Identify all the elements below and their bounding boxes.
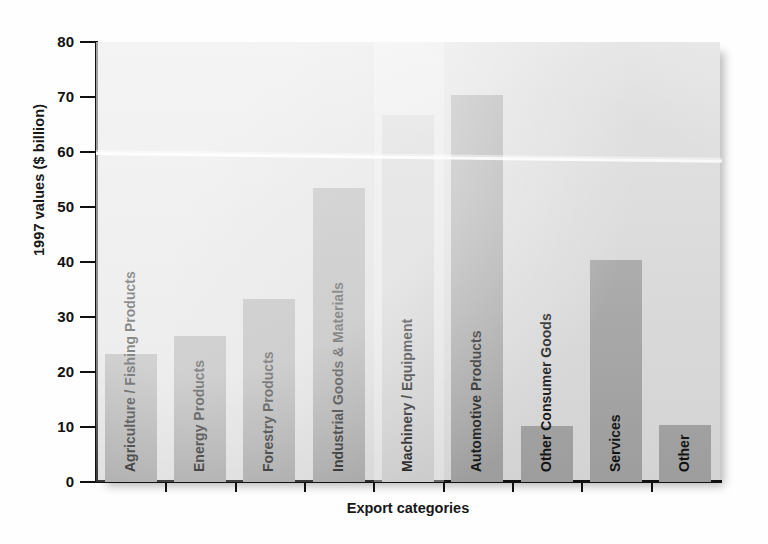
y-axis-tick bbox=[80, 96, 96, 98]
y-axis-tick bbox=[80, 41, 96, 43]
y-axis-tick bbox=[80, 151, 96, 153]
y-axis-tick-label: 0 bbox=[30, 473, 74, 490]
y-axis-tick bbox=[80, 261, 96, 263]
y-axis-tick bbox=[80, 371, 96, 373]
plot-area: Agriculture / Fishing ProductsEnergy Pro… bbox=[96, 42, 720, 482]
bar bbox=[382, 115, 434, 482]
y-axis-tick bbox=[80, 206, 96, 208]
x-axis-tick bbox=[581, 481, 583, 492]
y-axis-tick-label: 60 bbox=[30, 143, 74, 160]
y-axis-tick bbox=[80, 316, 96, 318]
y-axis-tick-label: 80 bbox=[30, 33, 74, 50]
bar bbox=[313, 188, 365, 482]
x-axis-tick bbox=[235, 481, 237, 492]
bar bbox=[590, 260, 642, 482]
y-axis-tick-label: 40 bbox=[30, 253, 74, 270]
x-axis-tick bbox=[373, 481, 375, 492]
y-axis-tick-label: 70 bbox=[30, 88, 74, 105]
x-axis-tick bbox=[512, 481, 514, 492]
bar bbox=[451, 95, 503, 482]
bar bbox=[243, 299, 295, 482]
x-axis-title: Export categories bbox=[95, 500, 721, 516]
y-axis-tick-label: 30 bbox=[30, 308, 74, 325]
y-axis-tick bbox=[80, 481, 96, 483]
y-axis-tick-label: 50 bbox=[30, 198, 74, 215]
bar bbox=[521, 426, 573, 482]
bar-chart-figure: 1997 values ($ billion) Agriculture / Fi… bbox=[0, 0, 768, 544]
y-axis-tick bbox=[80, 426, 96, 428]
x-axis-tick bbox=[651, 481, 653, 492]
bar bbox=[174, 336, 226, 482]
bar bbox=[659, 425, 711, 482]
bar bbox=[105, 354, 157, 482]
x-axis-tick bbox=[304, 481, 306, 492]
y-axis-tick-label: 10 bbox=[30, 418, 74, 435]
y-axis-tick-label: 20 bbox=[30, 363, 74, 380]
x-axis-tick bbox=[165, 481, 167, 492]
x-axis-tick bbox=[443, 481, 445, 492]
